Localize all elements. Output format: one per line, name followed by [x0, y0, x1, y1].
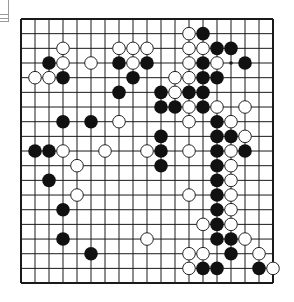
black-stone[interactable]	[196, 100, 210, 114]
white-stone[interactable]	[197, 218, 210, 231]
white-stone[interactable]	[183, 189, 196, 202]
white-stone[interactable]	[183, 42, 196, 55]
white-stone[interactable]	[113, 115, 126, 128]
black-stone[interactable]	[182, 86, 196, 100]
black-stone[interactable]	[210, 42, 224, 56]
white-stone[interactable]	[239, 130, 252, 143]
black-stone[interactable]	[154, 144, 168, 158]
black-stone[interactable]	[210, 130, 224, 144]
white-stone[interactable]	[239, 233, 252, 246]
black-stone[interactable]	[154, 130, 168, 144]
white-stone[interactable]	[225, 218, 238, 231]
white-stone[interactable]	[85, 57, 98, 70]
star-points	[229, 61, 233, 65]
white-stone[interactable]	[267, 262, 280, 275]
white-stone[interactable]	[183, 101, 196, 114]
white-stone[interactable]	[127, 42, 140, 55]
black-stone[interactable]	[196, 71, 210, 85]
black-stone[interactable]	[56, 203, 70, 217]
white-stone[interactable]	[71, 189, 84, 202]
white-stone[interactable]	[169, 71, 182, 84]
white-stone[interactable]	[29, 71, 42, 84]
white-stone[interactable]	[99, 145, 112, 158]
white-stone[interactable]	[197, 42, 210, 55]
white-stone[interactable]	[183, 247, 196, 260]
white-stone[interactable]	[183, 115, 196, 128]
black-stone[interactable]	[154, 159, 168, 173]
black-stone[interactable]	[154, 100, 168, 114]
white-stone[interactable]	[225, 145, 238, 158]
black-stone[interactable]	[42, 56, 56, 70]
white-stone[interactable]	[183, 71, 196, 84]
black-stone[interactable]	[210, 144, 224, 158]
black-stone[interactable]	[196, 262, 210, 276]
white-stone[interactable]	[211, 57, 224, 70]
black-stone[interactable]	[56, 232, 70, 246]
white-stone[interactable]	[225, 174, 238, 187]
black-stone[interactable]	[42, 174, 56, 188]
star-point	[229, 61, 233, 65]
white-stone[interactable]	[211, 101, 224, 114]
black-stone[interactable]	[126, 71, 140, 85]
white-stone[interactable]	[57, 42, 70, 55]
black-stone[interactable]	[84, 115, 98, 129]
black-stone[interactable]	[238, 56, 252, 70]
black-stone[interactable]	[210, 232, 224, 246]
white-stone[interactable]	[183, 57, 196, 70]
black-stone[interactable]	[210, 203, 224, 217]
white-stone[interactable]	[239, 101, 252, 114]
black-stone[interactable]	[112, 56, 126, 70]
white-stone[interactable]	[169, 86, 182, 99]
black-stone[interactable]	[210, 71, 224, 85]
white-stone[interactable]	[183, 27, 196, 40]
black-stone[interactable]	[28, 144, 42, 158]
black-stone[interactable]	[210, 218, 224, 232]
black-stone[interactable]	[210, 174, 224, 188]
black-stone[interactable]	[224, 42, 238, 56]
black-stone[interactable]	[210, 262, 224, 276]
white-stone[interactable]	[253, 247, 266, 260]
black-stone[interactable]	[196, 56, 210, 70]
black-stone[interactable]	[210, 188, 224, 202]
black-stone[interactable]	[252, 262, 266, 276]
black-stone[interactable]	[168, 100, 182, 114]
black-stone[interactable]	[196, 27, 210, 41]
go-board[interactable]	[0, 0, 294, 302]
white-stone[interactable]	[71, 159, 84, 172]
white-stone[interactable]	[57, 145, 70, 158]
white-stone[interactable]	[225, 203, 238, 216]
white-stone[interactable]	[113, 42, 126, 55]
white-stone[interactable]	[225, 159, 238, 172]
black-stone[interactable]	[112, 86, 126, 100]
black-stone[interactable]	[196, 86, 210, 100]
white-stone[interactable]	[43, 71, 56, 84]
white-stone[interactable]	[141, 42, 154, 55]
black-stone[interactable]	[84, 247, 98, 261]
black-stone[interactable]	[140, 56, 154, 70]
white-stone[interactable]	[183, 262, 196, 275]
black-stone[interactable]	[210, 115, 224, 129]
black-stone[interactable]	[42, 144, 56, 158]
black-stone[interactable]	[224, 232, 238, 246]
white-stone[interactable]	[183, 145, 196, 158]
black-stone[interactable]	[238, 144, 252, 158]
white-stone[interactable]	[127, 57, 140, 70]
white-stone[interactable]	[225, 189, 238, 202]
white-stone[interactable]	[197, 247, 210, 260]
white-stone[interactable]	[141, 145, 154, 158]
black-stone[interactable]	[224, 130, 238, 144]
black-stone[interactable]	[154, 86, 168, 100]
white-stone[interactable]	[57, 57, 70, 70]
black-stone[interactable]	[210, 159, 224, 173]
white-stone[interactable]	[225, 115, 238, 128]
black-stone[interactable]	[56, 115, 70, 129]
black-stone[interactable]	[56, 71, 70, 85]
white-stone[interactable]	[141, 233, 154, 246]
black-stone[interactable]	[224, 247, 238, 261]
